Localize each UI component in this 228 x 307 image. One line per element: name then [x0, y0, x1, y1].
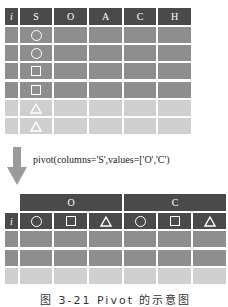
- table-cell: [20, 82, 52, 98]
- sub-header: [89, 213, 122, 229]
- table-cell: [124, 82, 156, 98]
- circle-icon: [31, 216, 42, 227]
- table-cell: [124, 118, 156, 134]
- square-icon: [31, 66, 41, 76]
- table-cell: [89, 27, 122, 43]
- sub-header: [158, 213, 191, 229]
- table-cell: [158, 45, 191, 61]
- triangle-icon: [30, 121, 42, 132]
- table-cell: [54, 82, 87, 98]
- table-cell: [20, 268, 52, 284]
- group-header-c: C: [124, 194, 226, 211]
- table-cell: [20, 118, 52, 134]
- table-cell: [5, 118, 18, 134]
- table-cell: [124, 100, 156, 116]
- table-cell: [124, 231, 156, 247]
- table-cell: [158, 63, 191, 79]
- table-cell: [193, 250, 226, 266]
- circle-icon: [135, 216, 146, 227]
- table-cell: [193, 268, 226, 284]
- table-cell: [89, 63, 122, 79]
- table-cell: [5, 231, 18, 247]
- table-cell: [54, 100, 87, 116]
- table-cell: [158, 27, 191, 43]
- square-icon: [66, 216, 76, 226]
- table-cell: [20, 27, 52, 43]
- sub-header: [20, 213, 52, 229]
- sub-header: [124, 213, 156, 229]
- table-cell: [89, 250, 122, 266]
- table-cell: [124, 45, 156, 61]
- square-icon: [170, 216, 180, 226]
- table-cell: [20, 45, 52, 61]
- header-label: i: [10, 216, 13, 227]
- triangle-icon: [30, 103, 42, 114]
- table-cell: [193, 231, 226, 247]
- table-cell: [20, 250, 52, 266]
- table-cell: [158, 82, 191, 98]
- table-cell: [158, 268, 191, 284]
- table-cell: [158, 250, 191, 266]
- down-arrow-icon: [7, 147, 27, 185]
- table-cell: [5, 63, 18, 79]
- table-cell: [54, 63, 87, 79]
- table-cell: [89, 118, 122, 134]
- index-header: i: [5, 213, 18, 229]
- table-cell: [89, 100, 122, 116]
- table-cell: [54, 268, 87, 284]
- table-cell: [89, 45, 122, 61]
- sub-header: [54, 213, 87, 229]
- circle-icon: [31, 48, 42, 59]
- table-cell: [54, 250, 87, 266]
- table-cell: [124, 27, 156, 43]
- header-s: S: [20, 8, 52, 25]
- header-a: A: [89, 8, 122, 25]
- table-cell: [5, 82, 18, 98]
- table-cell: [124, 268, 156, 284]
- table-cell: [5, 100, 18, 116]
- table-cell: [54, 27, 87, 43]
- table-cell: [5, 268, 18, 284]
- table-cell: [20, 63, 52, 79]
- table-cell: [124, 63, 156, 79]
- table-cell: [89, 82, 122, 98]
- group-header-o: O: [20, 194, 122, 211]
- triangle-icon: [100, 216, 112, 227]
- table-cell: [89, 231, 122, 247]
- header-c: C: [124, 8, 156, 25]
- sub-header: [193, 213, 226, 229]
- table-cell: [20, 231, 52, 247]
- table-cell: [20, 100, 52, 116]
- table-cell: [89, 268, 122, 284]
- figure-caption: 图 3-21 Pivot 的示意图: [40, 291, 191, 307]
- table-cell: [54, 45, 87, 61]
- circle-icon: [31, 30, 42, 41]
- pivot-operation-label: pivot(columns='S',values=['O','C'): [33, 154, 170, 165]
- table-cell: [5, 45, 18, 61]
- table-cell: [124, 250, 156, 266]
- table-cell: [5, 27, 18, 43]
- table-cell: [158, 118, 191, 134]
- table-cell: [5, 250, 18, 266]
- square-icon: [31, 85, 41, 95]
- header-o: O: [54, 8, 87, 25]
- table-cell: [158, 100, 191, 116]
- header-label: i: [10, 11, 13, 22]
- table-cell: [54, 231, 87, 247]
- header-i: i: [5, 8, 18, 25]
- table-cell: [158, 231, 191, 247]
- triangle-icon: [204, 216, 216, 227]
- header-h: H: [158, 8, 191, 25]
- table-cell: [54, 118, 87, 134]
